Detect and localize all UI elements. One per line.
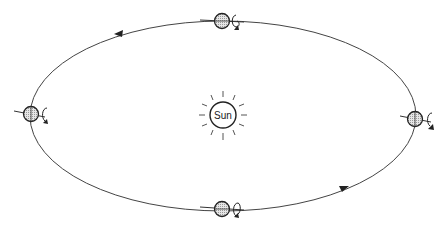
rotation-arrow-icon [43,108,48,124]
earth-bottom [200,202,244,219]
rotation-arrow-icon [232,15,239,30]
sun: Sun [199,91,247,140]
earth-right [400,112,434,131]
earth-left [14,107,48,125]
sun-label: Sun [214,110,232,121]
orbit-diagram: Sun [0,0,446,232]
